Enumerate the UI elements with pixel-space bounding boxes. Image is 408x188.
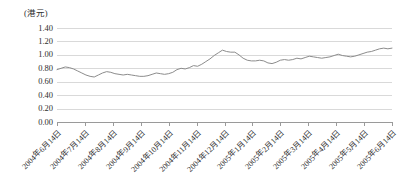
x-axis-tick-mark <box>57 122 58 126</box>
y-axis-tick-label: 1.40 <box>27 24 53 33</box>
x-axis-tick-label: 2005年1月14日 <box>210 128 259 177</box>
x-axis-tick-mark <box>141 122 142 126</box>
x-axis-tick-mark <box>336 122 337 126</box>
x-axis-tick-label: 2005年2月14日 <box>238 128 287 177</box>
y-axis-unit-label: (港元) <box>24 6 48 18</box>
x-axis-tick-label: 2005年6月14日 <box>350 128 399 177</box>
x-axis-tick-label: 2004年11月14日 <box>154 128 203 177</box>
x-axis-tick-mark <box>280 122 281 126</box>
x-axis-tick-mark <box>308 122 309 126</box>
x-axis-tick-label: 2004年9月14日 <box>98 128 147 177</box>
x-axis-tick-mark <box>392 122 393 126</box>
x-axis-tick-mark <box>252 122 253 126</box>
x-axis-tick-mark <box>169 122 170 126</box>
x-axis-tick-mark <box>197 122 198 126</box>
x-axis-tick-label: 2005年5月14日 <box>322 128 371 177</box>
y-axis-tick-label: 0.60 <box>27 77 53 86</box>
x-axis-tick-label: 2004年10月14日 <box>126 128 175 177</box>
y-axis-tick-label: 0.00 <box>27 118 53 127</box>
x-axis-tick-label: 2005年4月14日 <box>294 128 343 177</box>
x-axis-tick-label: 2005年3月14日 <box>266 128 315 177</box>
y-axis-tick-label: 1.20 <box>27 37 53 46</box>
y-axis-tick-label: 0.40 <box>27 91 53 100</box>
x-axis-tick-label: 2004年12月14日 <box>182 128 231 177</box>
x-axis-tick-mark <box>364 122 365 126</box>
x-axis-tick-mark <box>225 122 226 126</box>
series-layer <box>57 28 392 122</box>
x-axis-tick-label: 2004年6月14日 <box>15 128 64 177</box>
line-chart: (港元) 0.000.200.400.600.801.001.201.40 20… <box>0 0 408 188</box>
plot-area <box>57 28 392 122</box>
series-line-hkd <box>57 48 392 77</box>
y-axis-tick-label: 0.80 <box>27 64 53 73</box>
y-axis-tick-label: 0.20 <box>27 104 53 113</box>
x-axis-tick-label: 2004年8月14日 <box>70 128 119 177</box>
x-axis-tick-mark <box>113 122 114 126</box>
x-axis-tick-mark <box>85 122 86 126</box>
y-axis-tick-label: 1.00 <box>27 50 53 59</box>
x-axis-tick-label: 2004年7月14日 <box>42 128 91 177</box>
